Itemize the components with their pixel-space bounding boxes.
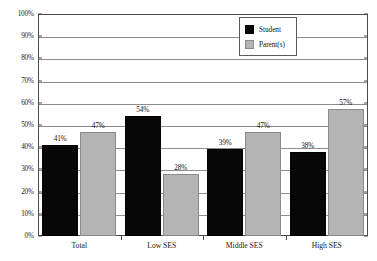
x-axis-category-label: Total (72, 241, 88, 250)
bar-low-ses-parent-s- (163, 174, 199, 236)
bar-value-label: 47% (257, 122, 270, 130)
x-axis-category-label: High SES (312, 241, 342, 250)
y-axis-tick-mark-right (364, 236, 368, 237)
y-axis-tick-mark-right (364, 169, 368, 170)
y-axis-tick-mark (38, 125, 42, 126)
y-axis-tick-label: 70% (0, 77, 34, 85)
bar-low-ses-student (125, 116, 161, 236)
bar-value-label: 57% (339, 99, 352, 107)
x-axis-category-label: Middle SES (226, 241, 263, 250)
bar-high-ses-parent-s- (328, 109, 364, 236)
y-axis-tick-label: 60% (0, 99, 34, 107)
x-axis-category-label: Low SES (147, 241, 176, 250)
y-axis-tick-label: 50% (0, 121, 34, 129)
y-axis-tick-label: 0% (0, 232, 34, 240)
gridline (39, 37, 367, 38)
bar-high-ses-student (290, 152, 326, 236)
legend-label-student: Student (259, 26, 281, 34)
y-axis-tick-mark-right (364, 102, 368, 103)
y-axis-tick-label: 20% (0, 188, 34, 196)
bar-middle-ses-student (207, 149, 243, 236)
y-axis-tick-mark-right (364, 36, 368, 37)
bar-value-label: 28% (174, 164, 187, 172)
y-axis-tick-label: 40% (0, 143, 34, 151)
x-axis-tick-mark (286, 236, 287, 240)
y-axis-tick-label: 90% (0, 32, 34, 40)
y-axis-tick-mark-right (364, 80, 368, 81)
y-axis-tick-mark-right (364, 213, 368, 214)
y-axis-tick-label: 30% (0, 165, 34, 173)
y-axis-tick-label: 80% (0, 54, 34, 62)
bar-chart: 0%10%20%30%40%50%60%70%80%90%100% 41%47%… (0, 0, 377, 261)
y-axis-tick-mark (38, 58, 42, 59)
y-axis-tick-mark-right (364, 191, 368, 192)
y-axis-tick-mark (38, 36, 42, 37)
bar-value-label: 47% (92, 122, 105, 130)
x-axis-tick-mark (203, 236, 204, 240)
y-axis-tick-mark (38, 80, 42, 81)
bar-total-parent-s- (80, 132, 116, 236)
legend: Student Parent(s) (239, 17, 297, 56)
gridline (39, 82, 367, 83)
x-axis-tick-mark (121, 236, 122, 240)
y-axis-tick-mark-right (364, 58, 368, 59)
y-axis-tick-mark-right (364, 14, 368, 15)
gridline (39, 126, 367, 127)
gridline (39, 104, 367, 105)
legend-swatch-student-icon (245, 25, 254, 34)
bar-value-label: 39% (219, 139, 232, 147)
bar-value-label: 38% (301, 142, 314, 150)
y-axis-tick-mark-right (364, 147, 368, 148)
y-axis-tick-mark (38, 14, 42, 15)
y-axis-tick-label: 100% (0, 10, 34, 18)
bar-total-student (42, 145, 78, 236)
y-axis-tick-mark-right (364, 125, 368, 126)
legend-item-student: Student (245, 22, 296, 37)
legend-label-parents: Parent(s) (259, 41, 285, 49)
gridline (39, 59, 367, 60)
legend-item-parents: Parent(s) (245, 37, 296, 52)
bar-value-label: 54% (136, 106, 149, 114)
y-axis-tick-label: 10% (0, 210, 34, 218)
bar-middle-ses-parent-s- (245, 132, 281, 236)
legend-swatch-parents-icon (245, 40, 254, 49)
y-axis-tick-mark (38, 102, 42, 103)
bar-value-label: 41% (54, 135, 67, 143)
